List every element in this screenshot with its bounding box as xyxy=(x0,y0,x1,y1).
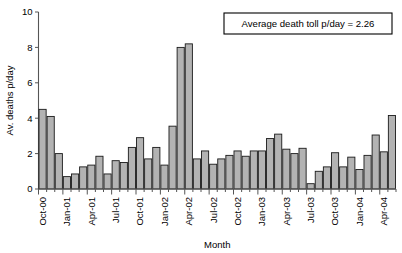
bar xyxy=(185,44,192,189)
x-axis-tick-label: Apr-01 xyxy=(86,197,97,226)
x-axis-tick-label: Oct-00 xyxy=(37,197,48,226)
chart-canvas: 0246810Av. deaths p/dayOct-00Jan-01Apr-0… xyxy=(0,0,402,253)
bar xyxy=(315,171,322,189)
bar xyxy=(193,159,200,189)
bar xyxy=(283,149,290,189)
bar xyxy=(80,167,87,189)
y-axis-tick-label: 4 xyxy=(27,113,32,124)
x-axis-tick-label: Jan-04 xyxy=(354,197,365,226)
bar xyxy=(128,147,135,189)
bar xyxy=(226,155,233,189)
bar xyxy=(331,153,338,189)
x-axis-tick-label: Jan-02 xyxy=(159,197,170,226)
x-axis-tick-label: Apr-03 xyxy=(281,197,292,226)
bar xyxy=(210,164,217,189)
y-axis-tick-label: 10 xyxy=(22,6,33,17)
annotation-text: Average death toll p/day = 2.26 xyxy=(242,18,375,29)
y-axis-tick-label: 6 xyxy=(27,77,32,88)
x-axis-tick-label: Oct-03 xyxy=(329,197,340,226)
bar xyxy=(63,177,70,189)
bar xyxy=(136,138,143,189)
bar xyxy=(120,162,127,189)
bar xyxy=(47,116,54,189)
bar xyxy=(177,47,184,189)
x-axis-tick-label: Jul-02 xyxy=(208,197,219,223)
bar xyxy=(71,174,78,189)
bar xyxy=(145,159,152,189)
bar xyxy=(104,174,111,189)
bar xyxy=(96,156,103,189)
bar xyxy=(388,116,395,189)
bar xyxy=(356,170,363,189)
bar xyxy=(39,109,46,189)
x-axis-tick-label: Jan-01 xyxy=(61,197,72,226)
bar xyxy=(380,152,387,189)
bar xyxy=(323,167,330,189)
bar xyxy=(372,135,379,189)
y-axis-title: Av. deaths p/day xyxy=(4,65,15,135)
x-axis-tick-label: Apr-02 xyxy=(183,197,194,226)
x-axis-tick-label: Jan-03 xyxy=(256,197,267,226)
bar xyxy=(88,165,95,189)
y-axis-tick-label: 8 xyxy=(27,42,32,53)
bar xyxy=(340,167,347,189)
x-axis-tick-label: Apr-04 xyxy=(378,197,389,226)
bar xyxy=(364,155,371,189)
bar xyxy=(266,139,273,189)
y-axis-tick-label: 2 xyxy=(27,148,32,159)
x-axis-title: Month xyxy=(204,239,230,250)
bar xyxy=(201,151,208,189)
bar xyxy=(234,151,241,189)
bar xyxy=(250,151,257,189)
bar xyxy=(218,159,225,189)
bar xyxy=(291,154,298,189)
bar xyxy=(258,151,265,189)
bar-chart-figure: 0246810Av. deaths p/dayOct-00Jan-01Apr-0… xyxy=(0,0,402,253)
x-axis-tick-label: Oct-01 xyxy=(134,197,145,226)
x-axis-tick-label: Jul-03 xyxy=(305,197,316,223)
bar xyxy=(112,161,119,189)
x-axis-tick-label: Oct-02 xyxy=(232,197,243,226)
bar xyxy=(153,147,160,189)
bar xyxy=(348,157,355,189)
bar xyxy=(169,126,176,189)
bar xyxy=(307,184,314,189)
bar xyxy=(299,148,306,189)
bar xyxy=(161,165,168,189)
bar xyxy=(275,134,282,189)
bar xyxy=(242,156,249,189)
x-axis-tick-label: Jul-01 xyxy=(110,197,121,223)
y-axis-tick-label: 0 xyxy=(27,183,32,194)
bar xyxy=(55,154,62,189)
